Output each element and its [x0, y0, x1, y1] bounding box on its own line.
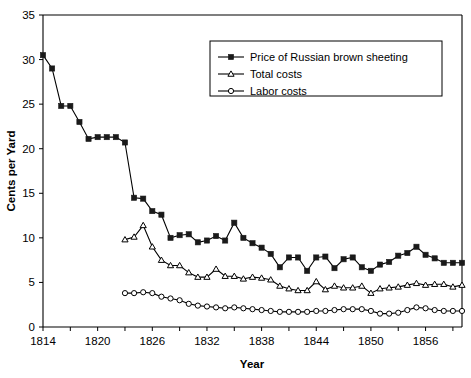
marker-square — [68, 103, 73, 108]
marker-square — [268, 251, 273, 256]
legend-border — [210, 41, 442, 96]
marker-circle — [150, 291, 155, 296]
y-tick-label: 35 — [22, 9, 35, 21]
marker-square — [40, 53, 45, 58]
marker-square — [150, 209, 155, 214]
marker-circle — [332, 307, 337, 312]
legend-label: Total costs — [250, 68, 302, 80]
marker-circle — [441, 308, 446, 313]
marker-circle — [405, 307, 410, 312]
marker-square — [159, 212, 164, 217]
marker-circle — [387, 311, 392, 316]
legend-label: Labor costs — [250, 85, 307, 97]
marker-square — [250, 241, 255, 246]
marker-square — [95, 135, 100, 140]
marker-square — [241, 235, 246, 240]
marker-square — [314, 255, 319, 260]
marker-square — [432, 256, 437, 261]
legend-label: Price of Russian brown sheeting — [250, 51, 408, 63]
marker-square — [405, 250, 410, 255]
marker-square — [323, 254, 328, 259]
marker-square — [213, 233, 218, 238]
marker-circle — [213, 305, 218, 310]
marker-circle — [259, 307, 264, 312]
marker-square — [104, 135, 109, 140]
marker-circle — [131, 291, 136, 296]
marker-square — [141, 196, 146, 201]
marker-square — [122, 140, 127, 145]
marker-square — [286, 255, 291, 260]
marker-circle — [141, 290, 146, 295]
marker-circle — [350, 307, 355, 312]
marker-square — [377, 262, 382, 267]
marker-circle — [186, 301, 191, 306]
marker-square — [131, 195, 136, 200]
marker-square — [113, 135, 118, 140]
marker-square — [332, 266, 337, 271]
marker-circle — [250, 307, 255, 312]
marker-square — [195, 240, 200, 245]
marker-square — [259, 245, 264, 250]
marker-circle — [232, 305, 237, 310]
chart-container: 05101520253035 1814182018261832183818441… — [0, 0, 471, 378]
marker-square — [295, 255, 300, 260]
marker-square — [186, 232, 191, 237]
marker-circle — [323, 308, 328, 313]
x-tick-label: 1856 — [413, 335, 439, 347]
marker-square — [59, 103, 64, 108]
x-tick-label: 1826 — [140, 335, 166, 347]
marker-circle — [159, 294, 164, 299]
marker-square — [232, 220, 237, 225]
marker-circle — [359, 307, 364, 312]
x-tick-label: 1838 — [249, 335, 275, 347]
marker-square — [450, 260, 455, 265]
marker-square — [396, 253, 401, 258]
marker-circle — [396, 310, 401, 315]
marker-square — [441, 260, 446, 265]
x-tick-label: 1832 — [194, 335, 220, 347]
marker-circle — [168, 296, 173, 301]
marker-circle — [241, 306, 246, 311]
marker-square — [305, 268, 310, 273]
marker-circle — [268, 308, 273, 313]
marker-circle — [450, 308, 455, 313]
y-axis-title: Cents per Yard — [5, 131, 17, 212]
marker-circle — [195, 303, 200, 308]
marker-square — [459, 260, 464, 265]
y-tick-label: 20 — [22, 143, 35, 155]
marker-square — [223, 238, 228, 243]
chart-legend: Price of Russian brown sheetingTotal cos… — [210, 41, 442, 97]
marker-circle — [295, 309, 300, 314]
marker-circle — [423, 306, 428, 311]
marker-square — [50, 66, 55, 71]
marker-circle — [377, 311, 382, 316]
marker-circle — [177, 298, 182, 303]
marker-square — [86, 136, 91, 141]
marker-circle — [122, 291, 127, 296]
y-tick-label: 10 — [22, 232, 35, 244]
marker-circle — [286, 309, 291, 314]
marker-square — [414, 244, 419, 249]
marker-square — [168, 235, 173, 240]
marker-circle — [314, 308, 319, 313]
marker-square — [350, 255, 355, 260]
marker-circle — [459, 308, 464, 313]
marker-square — [204, 238, 209, 243]
x-tick-label: 1850 — [358, 335, 384, 347]
marker-circle — [204, 304, 209, 309]
marker-circle — [277, 309, 282, 314]
marker-square — [423, 252, 428, 257]
y-tick-label: 0 — [29, 321, 35, 333]
line-chart: 05101520253035 1814182018261832183818441… — [0, 0, 471, 378]
marker-circle — [414, 305, 419, 310]
marker-circle — [305, 309, 310, 314]
y-tick-label: 5 — [29, 276, 35, 288]
marker-circle — [228, 88, 233, 93]
x-axis-title: Year — [240, 358, 265, 370]
marker-circle — [223, 306, 228, 311]
marker-square — [368, 268, 373, 273]
marker-circle — [341, 307, 346, 312]
x-tick-label: 1844 — [303, 335, 329, 347]
y-tick-label: 30 — [22, 54, 35, 66]
marker-circle — [432, 307, 437, 312]
